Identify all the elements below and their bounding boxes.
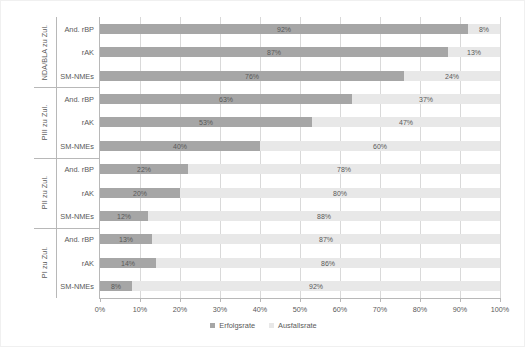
x-axis-tick-label: 30% (213, 305, 227, 314)
bar-value-label: 8% (100, 283, 132, 290)
x-axis-tick-label: 90% (453, 305, 467, 314)
bar-value-label: 63% (100, 95, 352, 102)
plot-region: NDA/BLA zu Zul.And. rBPrAKSM-NMEsPIII zu… (34, 17, 499, 298)
bar-row[interactable]: 22%78% (100, 164, 500, 174)
bar-segment-erfolgsrate[interactable]: 13% (100, 234, 152, 244)
bar-row[interactable]: 8%92% (100, 281, 500, 291)
category-axis-label: SM-NMEs (36, 141, 94, 150)
category-axis-column: NDA/BLA zu Zul.And. rBPrAKSM-NMEsPIII zu… (34, 17, 99, 298)
bar-segment-erfolgsrate[interactable]: 12% (100, 211, 148, 221)
bar-segment-ausfallsrate[interactable]: 8% (468, 24, 500, 34)
bar-value-label: 76% (100, 72, 404, 79)
bar-segment-erfolgsrate[interactable]: 8% (100, 281, 132, 291)
x-axis-tick-label: 40% (253, 305, 267, 314)
bar-value-label: 22% (100, 166, 188, 173)
legend-item[interactable]: Erfolgsrate (210, 321, 255, 330)
bar-segment-erfolgsrate[interactable]: 14% (100, 258, 156, 268)
x-axis-tick-mark (140, 298, 141, 302)
bar-row[interactable]: 13%87% (100, 234, 500, 244)
x-axis-tick-mark (340, 298, 341, 302)
bar-segment-ausfallsrate[interactable]: 60% (260, 141, 500, 151)
gridline (460, 17, 461, 298)
bar-segment-erfolgsrate[interactable]: 92% (100, 24, 468, 34)
x-axis-tick-label: 60% (333, 305, 347, 314)
legend-label: Ausfallsrate (278, 321, 317, 330)
bar-segment-ausfallsrate[interactable]: 86% (156, 258, 500, 268)
bar-segment-erfolgsrate[interactable]: 63% (100, 94, 352, 104)
gridline (500, 17, 501, 298)
x-axis-tick-label: 100% (491, 305, 509, 314)
bar-value-label: 53% (100, 119, 312, 126)
bar-segment-erfolgsrate[interactable]: 87% (100, 47, 448, 57)
legend-item[interactable]: Ausfallsrate (269, 321, 317, 330)
bar-segment-ausfallsrate[interactable]: 87% (152, 234, 500, 244)
bar-segment-erfolgsrate[interactable]: 40% (100, 141, 260, 151)
x-axis-tick-label: 0% (95, 305, 105, 314)
x-axis-tick-mark (380, 298, 381, 302)
bar-segment-ausfallsrate[interactable]: 47% (312, 117, 500, 127)
bar-value-label: 40% (100, 142, 260, 149)
bar-value-label: 92% (132, 283, 500, 290)
chart-legend: ErfolgsrateAusfallsrate (1, 321, 525, 330)
x-axis-tick-label: 70% (373, 305, 387, 314)
bar-value-label: 8% (468, 25, 500, 32)
bar-row[interactable]: 76%24% (100, 71, 500, 81)
bar-row[interactable]: 12%88% (100, 211, 500, 221)
x-axis-tick-label: 20% (173, 305, 187, 314)
x-axis-tick-mark (220, 298, 221, 302)
x-axis-tick-label: 50% (293, 305, 307, 314)
bar-value-label: 20% (100, 189, 180, 196)
chart-container: NDA/BLA zu Zul.And. rBPrAKSM-NMEsPIII zu… (0, 0, 525, 347)
bar-value-label: 13% (100, 236, 152, 243)
bar-row[interactable]: 20%80% (100, 188, 500, 198)
bar-segment-erfolgsrate[interactable]: 53% (100, 117, 312, 127)
bar-value-label: 47% (312, 119, 500, 126)
bar-segment-ausfallsrate[interactable]: 80% (180, 188, 500, 198)
bar-row[interactable]: 92%8% (100, 24, 500, 34)
bar-segment-erfolgsrate[interactable]: 20% (100, 188, 180, 198)
x-axis-tick-mark (500, 298, 501, 302)
bar-segment-ausfallsrate[interactable]: 88% (148, 211, 500, 221)
bar-row[interactable]: 40%60% (100, 141, 500, 151)
category-axis-label: rAK (36, 48, 94, 57)
bar-value-label: 60% (260, 142, 500, 149)
bar-row[interactable]: 53%47% (100, 117, 500, 127)
bar-segment-erfolgsrate[interactable]: 22% (100, 164, 188, 174)
legend-swatch-icon (210, 323, 215, 328)
bar-value-label: 78% (188, 166, 500, 173)
bar-value-label: 88% (148, 213, 500, 220)
x-axis-tick-mark (420, 298, 421, 302)
bar-segment-ausfallsrate[interactable]: 37% (352, 94, 500, 104)
bar-value-label: 86% (156, 259, 500, 266)
category-axis-label: rAK (36, 188, 94, 197)
category-axis-label: rAK (36, 258, 94, 267)
bar-segment-erfolgsrate[interactable]: 76% (100, 71, 404, 81)
gridline (300, 17, 301, 298)
gridline (340, 17, 341, 298)
gridline (260, 17, 261, 298)
legend-label: Erfolgsrate (219, 321, 255, 330)
bar-segment-ausfallsrate[interactable]: 78% (188, 164, 500, 174)
bar-value-label: 92% (100, 25, 468, 32)
bar-segment-ausfallsrate[interactable]: 13% (448, 47, 500, 57)
gridline (140, 17, 141, 298)
gridline (220, 17, 221, 298)
category-axis-label: rAK (36, 118, 94, 127)
x-axis-tick-mark (100, 298, 101, 302)
category-axis-label: And. rBP (36, 165, 94, 174)
x-axis-tick-mark (260, 298, 261, 302)
bar-row[interactable]: 14%86% (100, 258, 500, 268)
x-axis-tick-mark (460, 298, 461, 302)
bar-value-label: 13% (448, 49, 500, 56)
bar-value-label: 80% (180, 189, 500, 196)
bar-segment-ausfallsrate[interactable]: 92% (132, 281, 500, 291)
x-axis-tick-label: 80% (413, 305, 427, 314)
category-axis-label: And. rBP (36, 235, 94, 244)
category-axis-label: SM-NMEs (36, 71, 94, 80)
bar-segment-ausfallsrate[interactable]: 24% (404, 71, 500, 81)
bar-row[interactable]: 63%37% (100, 94, 500, 104)
bar-value-label: 24% (404, 72, 500, 79)
bar-value-label: 14% (100, 259, 156, 266)
bar-row[interactable]: 87%13% (100, 47, 500, 57)
bar-value-label: 37% (352, 95, 500, 102)
